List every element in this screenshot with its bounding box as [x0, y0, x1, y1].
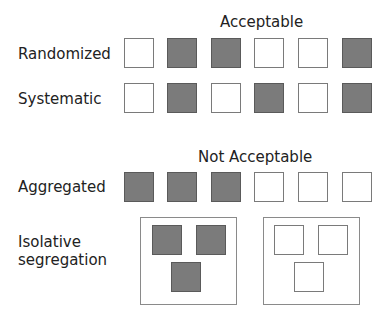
not-acceptable-heading: Not Acceptable — [198, 148, 312, 166]
empty-cell — [254, 38, 284, 68]
empty-cell — [211, 83, 241, 113]
acceptable-heading: Acceptable — [220, 13, 303, 31]
row-label-randomized: Randomized — [18, 45, 111, 63]
filled-cell — [167, 83, 197, 113]
filled-cell — [211, 38, 241, 68]
filled-cell — [342, 83, 372, 113]
segregated-cell — [196, 225, 226, 255]
isolative-container-empty — [263, 217, 360, 305]
filled-cell — [124, 172, 154, 202]
filled-cell — [342, 38, 372, 68]
empty-cell — [298, 172, 328, 202]
empty-cell — [342, 172, 372, 202]
segregated-cell — [152, 225, 182, 255]
isolative-label-line2: segregation — [18, 251, 107, 269]
filled-cell — [254, 83, 284, 113]
empty-cell — [124, 38, 154, 68]
empty-cell — [298, 38, 328, 68]
row-label-isolative: Isolative segregation — [18, 233, 107, 269]
filled-cell — [167, 38, 197, 68]
empty-cell — [254, 172, 284, 202]
filled-cell — [167, 172, 197, 202]
row-label-systematic: Systematic — [18, 90, 101, 108]
segregated-cell — [171, 262, 201, 292]
filled-cell — [211, 172, 241, 202]
empty-cell — [124, 83, 154, 113]
segregated-cell — [294, 262, 324, 292]
segregated-cell — [274, 225, 304, 255]
isolative-container-filled — [140, 217, 237, 305]
empty-cell — [298, 83, 328, 113]
row-label-aggregated: Aggregated — [18, 178, 106, 196]
isolative-label-line1: Isolative — [18, 233, 107, 251]
segregated-cell — [318, 225, 348, 255]
